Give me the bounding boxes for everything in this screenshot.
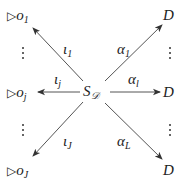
vertical-ellipsis-left-top <box>22 47 26 62</box>
vertical-ellipsis-right-bottom <box>169 124 173 139</box>
label-iota-j: ιj <box>54 72 61 91</box>
node-D-1: D <box>163 8 174 23</box>
label-alpha-L: αL <box>117 134 130 153</box>
node-D-l: D <box>163 85 174 100</box>
arrow-alpha-L <box>105 103 162 159</box>
node-o-J: ▷oJ <box>7 163 28 182</box>
node-D-L: D <box>163 163 174 178</box>
label-iota-J: ιJ <box>63 134 72 153</box>
node-o-j: ▷oj <box>7 85 27 104</box>
label-alpha-1: α1 <box>117 42 130 61</box>
triangle-icon: ▷ <box>7 164 16 178</box>
label-iota-1: ι1 <box>63 42 72 61</box>
triangle-icon: ▷ <box>7 86 16 100</box>
vertical-ellipsis-right-top <box>169 47 173 62</box>
label-alpha-l: αl <box>128 72 139 91</box>
node-o-1: ▷o1 <box>7 8 29 27</box>
center-node-S-D: S𝒟 <box>83 84 99 103</box>
arrow-iota-J <box>33 102 83 156</box>
vertical-ellipsis-left-bottom <box>22 124 26 139</box>
triangle-icon: ▷ <box>7 9 16 23</box>
